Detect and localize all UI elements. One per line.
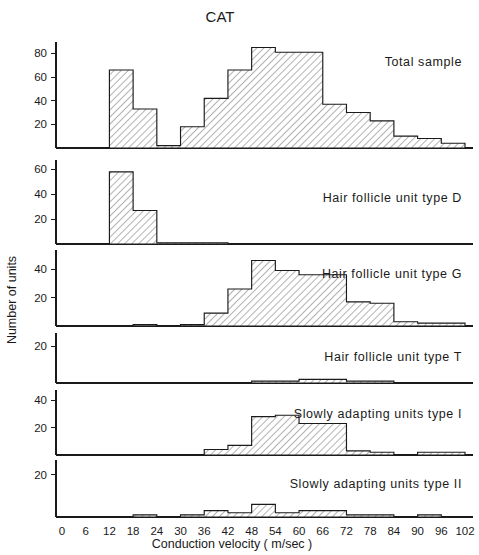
y-tick-label: 40 xyxy=(34,188,47,200)
x-tick-label: 30 xyxy=(174,525,187,537)
y-tick-label: 80 xyxy=(34,47,47,59)
panel-total-sample: 20406080Total sample xyxy=(34,42,473,148)
x-tick-label: 18 xyxy=(127,525,140,537)
y-axis-label: Number of units xyxy=(5,256,19,344)
panel-label-slowly-adapting-units-type-i: Slowly adapting units type I xyxy=(294,407,462,421)
y-tick-label: 20 xyxy=(34,213,47,225)
panel-hair-follicle-unit-type-g: 2040Hair follicle unit type G xyxy=(34,250,473,326)
panel-slowly-adapting-units-type-ii: 20Slowly adapting units type II xyxy=(34,460,473,517)
panel-label-hair-follicle-unit-type-d: Hair follicle unit type D xyxy=(323,191,462,205)
panel-label-hair-follicle-unit-type-t: Hair follicle unit type T xyxy=(324,350,462,364)
panel-group: 20406080Total sample204060Hair follicle … xyxy=(34,42,473,517)
panel-label-hair-follicle-unit-type-g: Hair follicle unit type G xyxy=(322,267,462,281)
x-tick-label: 6 xyxy=(83,525,89,537)
histogram-series xyxy=(62,504,465,517)
y-tick-label: 20 xyxy=(34,469,47,481)
x-tick-label: 36 xyxy=(198,525,211,537)
panel-slowly-adapting-units-type-i: 2040Slowly adapting units type I xyxy=(34,390,473,455)
x-tick-label: 42 xyxy=(222,525,235,537)
y-tick-label: 20 xyxy=(34,118,47,130)
x-tick-label: 24 xyxy=(150,525,163,537)
histogram-series xyxy=(62,172,465,244)
x-axis-label: Conduction velocity ( m/sec ) xyxy=(152,537,312,551)
x-axis: 06121824303642485460667278849096102 xyxy=(59,525,475,537)
panel-hair-follicle-unit-type-d: 204060Hair follicle unit type D xyxy=(34,160,473,244)
y-tick-label: 40 xyxy=(34,263,47,275)
x-tick-label: 90 xyxy=(411,525,424,537)
figure-title: CAT xyxy=(206,8,235,25)
x-tick-label: 48 xyxy=(245,525,258,537)
x-tick-label: 60 xyxy=(293,525,306,537)
panel-label-slowly-adapting-units-type-ii: Slowly adapting units type II xyxy=(290,477,462,491)
y-tick-label: 40 xyxy=(34,394,47,406)
x-tick-label: 96 xyxy=(435,525,448,537)
y-tick-label: 60 xyxy=(34,71,47,83)
x-tick-label: 54 xyxy=(269,525,282,537)
y-tick-label: 20 xyxy=(34,292,47,304)
x-tick-label: 78 xyxy=(364,525,377,537)
y-tick-label: 20 xyxy=(34,340,47,352)
histogram-series xyxy=(62,379,465,383)
x-tick-label: 102 xyxy=(455,525,474,537)
y-tick-label: 60 xyxy=(34,163,47,175)
x-tick-label: 66 xyxy=(316,525,329,537)
x-tick-label: 72 xyxy=(340,525,353,537)
figure-container: CAT 20406080Total sample204060Hair folli… xyxy=(0,0,479,555)
y-tick-label: 40 xyxy=(34,95,47,107)
histogram-series xyxy=(62,415,465,455)
x-tick-label: 0 xyxy=(59,525,65,537)
panel-hair-follicle-unit-type-t: 20Hair follicle unit type T xyxy=(34,333,473,383)
panel-label-total-sample: Total sample xyxy=(385,55,462,69)
x-tick-label: 84 xyxy=(387,525,400,537)
x-tick-label: 12 xyxy=(103,525,116,537)
y-tick-label: 20 xyxy=(34,422,47,434)
